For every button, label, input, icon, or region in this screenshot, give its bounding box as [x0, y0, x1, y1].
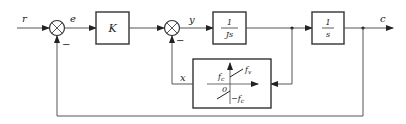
minus-sign-2: −	[176, 35, 184, 46]
inner-signal: y	[180, 14, 214, 28]
output-signal: c	[344, 13, 393, 30]
label-e: e	[70, 13, 76, 24]
integrator-denominator: s	[326, 30, 330, 39]
block-diagram: r − e K − y 1 Js 1	[0, 0, 406, 124]
inertia-block: 1 Js	[213, 12, 246, 44]
gain-label: K	[107, 22, 117, 35]
gain-block: K	[96, 12, 129, 44]
input-signal: r	[17, 13, 49, 28]
label-y: y	[188, 14, 195, 25]
label-x: x	[180, 72, 186, 83]
origin-label: 0	[222, 85, 227, 94]
integrator-numerator: 1	[325, 18, 330, 27]
error-signal: e	[65, 13, 97, 28]
summing-junction-2: −	[165, 21, 185, 47]
inertia-numerator: 1	[227, 18, 232, 27]
label-c: c	[380, 13, 386, 24]
velocity-feedback-line	[271, 28, 292, 84]
summing-junction-1: −	[50, 21, 71, 51]
inertia-denominator: Js	[224, 30, 233, 39]
label-r: r	[22, 13, 28, 24]
friction-nonlinearity-block: fc fv 0 −fc	[193, 59, 271, 108]
integrator-block: 1 s	[312, 12, 344, 44]
minus-sign-1: −	[62, 39, 70, 50]
